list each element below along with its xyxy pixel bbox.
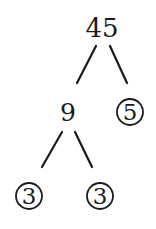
node-5-circled: 5	[117, 99, 143, 125]
node-45: 45	[85, 13, 118, 43]
node-label-3-right: 3	[93, 183, 108, 209]
node-3-left-circled: 3	[16, 183, 42, 209]
node-label-9: 9	[60, 98, 76, 127]
node-label-3-left: 3	[22, 183, 37, 209]
node-label-45: 45	[85, 13, 118, 43]
node-9: 9	[60, 98, 76, 127]
edges	[42, 46, 127, 167]
edge-45-to-9	[77, 46, 96, 83]
edge-9-to-3-right	[75, 132, 92, 167]
factor-tree-diagram: 45 9 5 3 3	[0, 0, 156, 229]
edge-9-to-3-left	[42, 132, 62, 167]
edge-45-to-5	[110, 46, 127, 83]
node-label-5: 5	[123, 99, 138, 125]
node-3-right-circled: 3	[87, 183, 113, 209]
